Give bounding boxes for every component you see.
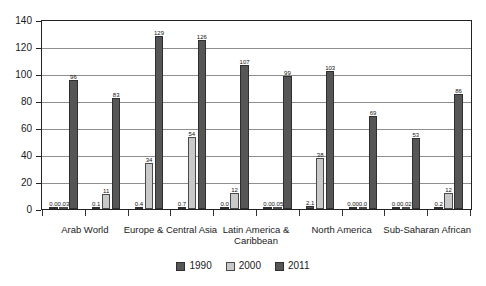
bar-value-label: 0.0	[49, 201, 57, 208]
bar-1990[interactable]: 0.2	[434, 207, 443, 209]
x-axis-tick-mark	[384, 210, 385, 216]
bar-group: 0.00.0396	[49, 21, 78, 209]
bar-value-label: 129	[154, 30, 164, 37]
bar-2000[interactable]: 0.05	[273, 207, 282, 209]
bar-2011[interactable]: 107	[240, 65, 249, 209]
bar-value-label: 0.05	[272, 201, 284, 208]
bar-value-label: 34	[146, 157, 153, 164]
legend-item-2011[interactable]: 2011	[275, 261, 310, 271]
x-axis-tick-mark	[213, 210, 214, 216]
x-axis-tick-mark	[42, 210, 43, 216]
y-axis-tick-mark	[36, 210, 41, 211]
bar-chart: 140 120 100 80 60 40 20 0 0.00.03960.111…	[0, 0, 486, 286]
bar-1990[interactable]: 0.0	[49, 207, 58, 209]
chart-legend: 1990 2000 2011	[0, 261, 486, 271]
bar-value-label: 0.2	[434, 201, 442, 208]
bar-1990[interactable]: 2.1	[306, 206, 315, 209]
y-axis-tick-label: 80	[2, 97, 32, 107]
x-axis-category-label: Latin America & Caribbean	[208, 224, 304, 246]
bar-value-label: 53	[412, 132, 419, 139]
x-axis-tick-mark	[299, 210, 300, 216]
bar-2011[interactable]: 126	[198, 40, 207, 209]
bars-layer: 0.00.03960.111830.4341290.7541260.012107…	[42, 21, 470, 209]
x-axis-tick-mark	[128, 210, 129, 216]
bar-1990[interactable]: 0.0	[220, 207, 229, 209]
y-axis-tick-label: 20	[2, 178, 32, 188]
bar-2011[interactable]: 86	[454, 94, 463, 209]
legend-swatch-icon	[176, 262, 185, 271]
y-axis-tick-label: 140	[2, 16, 32, 26]
bar-value-label: 0.02	[400, 201, 412, 208]
bar-2000[interactable]: 11	[102, 194, 111, 209]
bar-value-label: 126	[197, 34, 207, 41]
x-axis-tick-mark	[427, 210, 428, 216]
x-axis-tick-mark	[470, 210, 471, 216]
y-axis-tick-label: 60	[2, 124, 32, 134]
bar-value-label: 99	[284, 70, 291, 77]
bar-2000[interactable]: 12	[444, 193, 453, 209]
bar-value-label: 0.0	[220, 201, 228, 208]
x-axis-category-label: Sub-Saharan African	[379, 224, 475, 235]
bar-2011[interactable]: 103	[326, 71, 335, 209]
y-axis-tick-label: 100	[2, 70, 32, 80]
bar-1990[interactable]: 0.00	[349, 207, 358, 209]
bar-value-label: 69	[370, 110, 377, 117]
y-axis-tick-label: 120	[2, 43, 32, 53]
x-axis-tick-mark	[256, 210, 257, 216]
bar-2011[interactable]: 129	[155, 36, 164, 209]
bar-value-label: 83	[113, 92, 120, 99]
bar-group: 2.138103	[306, 21, 335, 209]
bar-1990[interactable]: 0.1	[92, 207, 101, 209]
bar-2011[interactable]: 83	[112, 98, 121, 209]
bar-2011[interactable]: 53	[412, 138, 421, 209]
legend-swatch-icon	[275, 262, 284, 271]
bar-1990[interactable]: 0.7	[178, 207, 187, 209]
x-axis-category-label: Europe & Central Asia	[122, 224, 218, 235]
bar-value-label: 0.0	[359, 201, 367, 208]
y-axis-tick-label: 40	[2, 151, 32, 161]
bar-2000[interactable]: 12	[230, 193, 239, 209]
legend-swatch-icon	[226, 262, 235, 271]
x-axis-tick-mark	[170, 210, 171, 216]
bar-group: 0.00.0253	[392, 21, 421, 209]
bar-2000[interactable]: 0.03	[59, 207, 68, 209]
legend-item-1990[interactable]: 1990	[176, 261, 211, 271]
legend-label: 2000	[239, 261, 261, 271]
bar-2000[interactable]: 0.02	[402, 207, 411, 209]
y-axis-tick-label: 0	[2, 205, 32, 215]
bar-value-label: 0.4	[135, 201, 143, 208]
bar-value-label: 0.0	[263, 201, 271, 208]
bar-value-label: 54	[188, 131, 195, 138]
legend-label: 1990	[189, 261, 211, 271]
bar-value-label: 0.1	[92, 201, 100, 208]
bar-value-label: 86	[455, 88, 462, 95]
bar-value-label: 12	[445, 187, 452, 194]
bar-1990[interactable]: 0.0	[263, 207, 272, 209]
bar-2000[interactable]: 34	[145, 163, 154, 209]
x-axis-tick-mark	[342, 210, 343, 216]
bar-1990[interactable]: 0.4	[135, 207, 144, 209]
legend-item-2000[interactable]: 2000	[226, 261, 261, 271]
bar-group: 0.000.069	[349, 21, 378, 209]
bar-group: 0.434129	[135, 21, 164, 209]
bar-value-label: 107	[240, 59, 250, 66]
bar-value-label: 0.7	[178, 201, 186, 208]
bar-2011[interactable]: 69	[369, 116, 378, 209]
bar-value-label: 12	[231, 187, 238, 194]
bar-2011[interactable]: 99	[283, 76, 292, 209]
bar-value-label: 0.0	[392, 201, 400, 208]
bar-2000[interactable]: 0.0	[359, 207, 368, 209]
bar-group: 0.21286	[434, 21, 463, 209]
x-axis-category-label: Arab World	[37, 224, 133, 235]
bar-1990[interactable]: 0.0	[392, 207, 401, 209]
bar-2000[interactable]: 54	[188, 137, 197, 210]
bar-value-label: 38	[317, 152, 324, 159]
bar-value-label: 2.1	[306, 200, 314, 207]
bar-2011[interactable]: 96	[69, 80, 78, 209]
bar-value-label: 0.03	[58, 201, 70, 208]
bar-value-label: 11	[103, 188, 109, 195]
bar-value-label: 103	[325, 65, 335, 72]
bar-2000[interactable]: 38	[316, 158, 325, 209]
bar-value-label: 0.00	[347, 201, 359, 208]
legend-label: 2011	[288, 261, 310, 271]
